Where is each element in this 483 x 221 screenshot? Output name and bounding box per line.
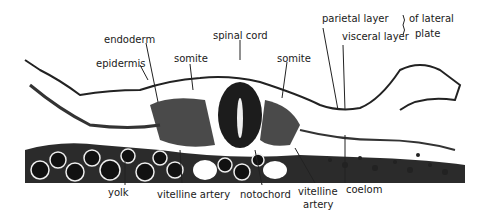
- label-vitelline-artery-right-2: artery: [303, 199, 333, 211]
- label-spinal-cord: spinal cord: [213, 30, 268, 42]
- label-plate: plate: [415, 28, 440, 40]
- somite-left-tissue: [150, 98, 215, 146]
- label-of-lateral: of lateral: [409, 13, 454, 25]
- label-somite-left: somite: [174, 53, 208, 65]
- label-yolk: yolk: [108, 187, 129, 199]
- label-epidermis: epidermis: [96, 58, 145, 70]
- embryo-section-diagram: endoderm epidermis somite spinal cord so…: [0, 0, 483, 221]
- label-parietal-layer: parietal layer: [322, 13, 389, 25]
- label-visceral-layer: visceral layer: [342, 31, 409, 43]
- label-somite-right: somite: [277, 53, 311, 65]
- label-endoderm: endoderm: [104, 34, 155, 46]
- label-notochord: notochord: [240, 189, 291, 201]
- label-vitelline-artery-left: vitelline artery: [157, 189, 230, 201]
- label-coelom: coelom: [346, 184, 382, 196]
- label-vitelline-artery-right-1: vitelline: [298, 186, 338, 198]
- somite-right-tissue: [260, 100, 300, 146]
